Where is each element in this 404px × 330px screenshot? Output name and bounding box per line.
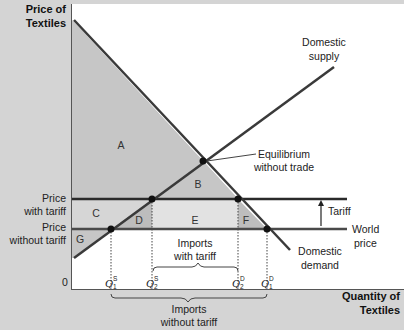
- imports-without-tariff-brace: [111, 294, 267, 302]
- svg-text:2: 2: [154, 283, 158, 290]
- price-with-tariff-label-1: Price: [42, 192, 66, 204]
- q2-demand-label: Q D 2: [232, 275, 245, 290]
- demand-label-1: Domestic: [298, 245, 342, 257]
- svg-text:Q: Q: [146, 277, 154, 289]
- area-f-label: F: [243, 214, 249, 226]
- imports-with-tariff-label-2: with tariff: [173, 250, 216, 262]
- supply-label-2: supply: [309, 50, 340, 62]
- svg-text:D: D: [269, 275, 274, 282]
- imports-with-tariff-label-1: Imports: [177, 237, 212, 249]
- y-axis-label-2: Textiles: [26, 17, 66, 29]
- price-with-tariff-label-2: with tariff: [23, 205, 66, 217]
- area-a-label: A: [117, 139, 124, 151]
- equilibrium-label-1: Equilibrium: [258, 148, 310, 160]
- svg-text:Q: Q: [232, 277, 240, 289]
- supply-label-1: Domestic: [302, 36, 346, 48]
- imports-without-tariff-label-2: without tariff: [160, 316, 217, 328]
- tariff-label: Tariff: [328, 205, 351, 217]
- area-g-label: G: [76, 233, 84, 245]
- demand-label-2: demand: [301, 259, 339, 271]
- y-axis-label-1: Price of: [26, 3, 67, 15]
- origin-label: 0: [62, 276, 68, 288]
- area-d-label: D: [135, 214, 143, 226]
- equilibrium-label-2: without trade: [253, 161, 314, 173]
- x-axis-label-2: Textiles: [360, 304, 400, 316]
- svg-text:Q: Q: [105, 277, 113, 289]
- tariff-diagram: Price of Textiles Quantity of Textiles 0…: [0, 0, 404, 330]
- svg-text:2: 2: [240, 283, 244, 290]
- world-price-label-2: price: [354, 237, 377, 249]
- imports-without-tariff-label-1: Imports: [171, 303, 206, 315]
- q2-supply-label: Q S 2: [146, 275, 159, 290]
- area-c-label: C: [92, 207, 100, 219]
- q1-supply-label: Q S 1: [105, 275, 118, 290]
- price-without-tariff-label-1: Price: [42, 221, 66, 233]
- svg-text:1: 1: [269, 283, 273, 290]
- svg-text:S: S: [113, 275, 118, 282]
- svg-text:Q: Q: [261, 277, 269, 289]
- area-b-label: B: [194, 178, 201, 190]
- price-without-tariff-label-2: without tariff: [9, 234, 66, 246]
- svg-text:D: D: [240, 275, 245, 282]
- svg-text:1: 1: [113, 283, 117, 290]
- svg-text:S: S: [154, 275, 159, 282]
- x-axis-label-1: Quantity of: [342, 290, 400, 302]
- area-e-label: E: [191, 214, 198, 226]
- q1-demand-label: Q D 1: [261, 275, 274, 290]
- world-price-label-1: World: [352, 223, 379, 235]
